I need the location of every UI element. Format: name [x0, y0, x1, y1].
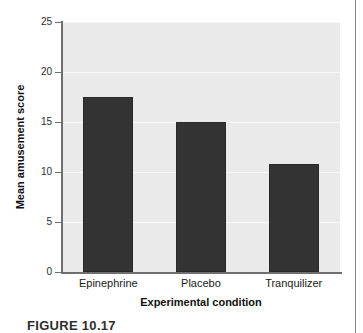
figure-caption: FIGURE 10.17 [27, 318, 116, 333]
gridline [62, 72, 340, 73]
figure-bar-chart: 0510152025 EpinephrinePlaceboTranquilize… [0, 0, 363, 333]
x-axis-tick-label: Placebo [155, 277, 248, 290]
y-axis-tick [55, 72, 61, 73]
x-axis-tick-label: Epinephrine [62, 277, 155, 290]
y-axis-tick [55, 122, 61, 123]
bar [176, 122, 226, 272]
x-axis-tick-label: Tranquilizer [247, 277, 340, 290]
bar [269, 164, 319, 272]
y-axis-tick [55, 272, 61, 273]
x-axis-line [61, 272, 342, 274]
bar [83, 97, 133, 272]
page-edge-rule [355, 0, 356, 333]
y-axis-title: Mean amusement score [14, 22, 30, 272]
y-axis-tick [55, 172, 61, 173]
y-axis-tick [55, 22, 61, 23]
y-axis-line [61, 21, 63, 273]
y-axis-tick [55, 222, 61, 223]
x-axis-title: Experimental condition [62, 296, 340, 308]
gridline [62, 22, 340, 23]
